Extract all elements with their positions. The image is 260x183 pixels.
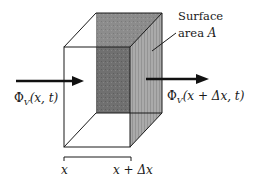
position-x-label: x [61, 164, 68, 176]
position-x-plus-dx-label: x + Δx [113, 164, 153, 176]
area-variable: A [208, 26, 217, 40]
surface-label-line2: area A [178, 27, 223, 40]
surface-area-label: Surface area A [178, 11, 223, 39]
control-volume-diagram: Surface area A ΦV(x, t) ΦV(x + Δx, t) x … [0, 0, 260, 183]
surface-label-line1: Surface [178, 11, 223, 23]
inflow-flux-label: ΦV(x, t) [14, 92, 58, 104]
inflow-arrow [16, 76, 84, 86]
outflow-flux-label: ΦV(x + Δx, t) [167, 90, 244, 102]
